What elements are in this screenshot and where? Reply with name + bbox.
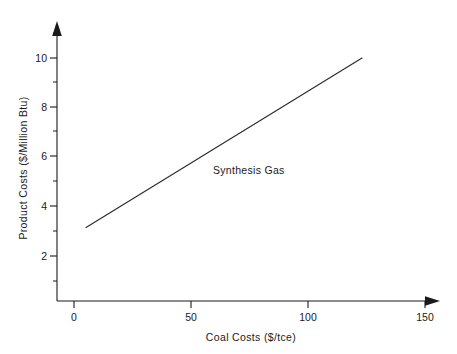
y-tick-label-8: 8 <box>41 101 47 113</box>
x-tick-label-150: 150 <box>416 311 434 323</box>
y-axis: 10 8 6 4 2 Product Costs ($/Million Btu) <box>17 21 62 301</box>
y-tick-label-6: 6 <box>41 150 47 162</box>
chart-figure: 10 8 6 4 2 Product Costs ($/Million Btu)… <box>0 0 457 354</box>
y-tick-label-2: 2 <box>41 250 47 262</box>
series-line-synthesis-gas <box>86 58 362 228</box>
y-tick-label-4: 4 <box>41 200 47 212</box>
x-tick-label-100: 100 <box>299 311 317 323</box>
y-axis-title: Product Costs ($/Million Btu) <box>17 96 29 239</box>
x-axis-arrow-icon <box>425 296 440 306</box>
y-tick-label-10: 10 <box>35 52 47 64</box>
x-axis-title: Coal Costs ($/tce) <box>206 331 296 343</box>
series-annotation-synthesis-gas: Synthesis Gas <box>213 164 285 176</box>
x-tick-label-50: 50 <box>185 311 197 323</box>
chart-canvas: 10 8 6 4 2 Product Costs ($/Million Btu)… <box>0 0 457 354</box>
x-tick-label-0: 0 <box>71 311 77 323</box>
x-axis: 0 50 100 150 Coal Costs ($/tce) <box>57 296 440 343</box>
y-axis-arrow-icon <box>52 21 62 36</box>
data-series-synthesis-gas: Synthesis Gas <box>86 58 362 228</box>
